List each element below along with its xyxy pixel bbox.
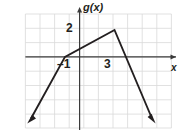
y-tick-label-2: 2 (66, 21, 73, 35)
x-axis-arrowhead (171, 54, 177, 59)
x-tick-label-negative-1: –1 (57, 57, 70, 71)
x-tick-label-3: 3 (104, 57, 111, 71)
curve-arrowhead-left (27, 114, 36, 123)
function-curve-gx (31, 30, 152, 119)
axes (25, 9, 176, 130)
y-axis-arrowhead (77, 7, 82, 13)
x-axis-label: x (171, 62, 177, 73)
graph-figure: g(x) x 2 –1 3 (0, 0, 187, 135)
coordinate-plane (0, 0, 187, 135)
curve-arrowhead-right (148, 114, 156, 124)
function-axis-label: g(x) (83, 1, 103, 13)
